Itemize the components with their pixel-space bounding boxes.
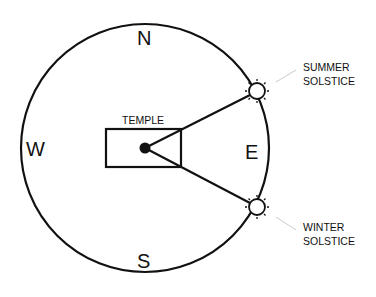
winter-sightline xyxy=(145,148,250,203)
summer-leader-line xyxy=(276,70,296,82)
summer-solstice-label-1: SUMMER xyxy=(303,61,350,73)
summer-solstice-label-2: SOLSTICE xyxy=(303,75,355,87)
temple-solstice-diagram: TEMPLE N S E W SUMMER SOLSTICE xyxy=(0,0,376,297)
east-label: E xyxy=(245,141,258,163)
north-label: N xyxy=(137,27,151,49)
winter-sun-icon xyxy=(245,195,269,219)
winter-leader-line xyxy=(276,217,296,230)
winter-solstice-label-2: SOLSTICE xyxy=(303,235,355,247)
summer-sun-icon xyxy=(245,79,269,103)
temple-label: TEMPLE xyxy=(122,114,164,126)
south-label: S xyxy=(137,250,150,272)
west-label: W xyxy=(26,138,45,160)
temple-center-dot xyxy=(140,143,151,154)
winter-solstice-label-1: WINTER xyxy=(303,221,345,233)
